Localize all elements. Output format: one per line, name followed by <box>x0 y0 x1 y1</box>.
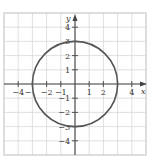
y-tick-label: −2 <box>58 108 70 117</box>
y-tick-label: 4 <box>65 23 70 32</box>
axes <box>4 14 147 155</box>
x-tick-label: 2 <box>101 88 106 97</box>
x-tick-label: −4 <box>12 88 24 97</box>
x-tick-label: − <box>25 88 32 97</box>
y-axis-arrow-icon <box>73 14 78 21</box>
circle-graph: −4−2−1124−4321−1−2−3−4 x y <box>0 0 148 157</box>
x-tick-label: 1 <box>87 88 92 97</box>
y-tick-label: 1 <box>65 66 70 75</box>
y-tick-label: 2 <box>65 52 70 61</box>
x-tick-label: 4 <box>129 88 134 97</box>
x-axis-label: x <box>141 87 146 96</box>
y-tick-label: −1 <box>58 94 70 103</box>
x-tick-label: −2 <box>41 88 53 97</box>
y-axis-label: y <box>65 14 71 23</box>
y-tick-label: −4 <box>58 137 70 146</box>
